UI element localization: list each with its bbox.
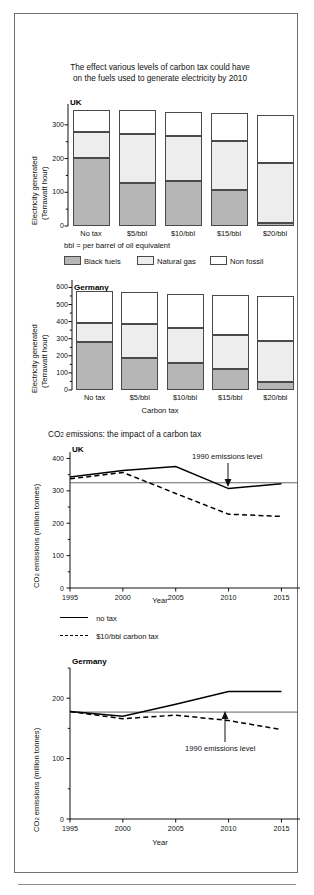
y-tick-label: 200 xyxy=(42,352,68,359)
bar-segment xyxy=(121,358,158,390)
y-tick-label: 600 xyxy=(42,283,68,290)
germany-1990-annotation: 1990 emissions level xyxy=(185,744,256,753)
bar-segment xyxy=(257,341,294,382)
x-tick-label: $20/bbl xyxy=(249,393,301,402)
y-tick-label: 200 xyxy=(38,155,64,162)
bar-segment xyxy=(257,382,294,390)
bar-segment xyxy=(119,110,156,134)
x-tick-label: $20/bbl xyxy=(249,229,301,238)
bar-segment xyxy=(212,335,249,369)
bar-segment xyxy=(121,324,158,359)
bar-segment xyxy=(211,190,248,226)
line-legend-label-carbon-tax: $10/bbl carbon tax xyxy=(96,632,158,641)
bar-segment xyxy=(167,328,204,363)
y-tick-label: 0 xyxy=(42,386,68,393)
bar-chart-title-line2: on the fuels used to generate electricit… xyxy=(40,73,280,84)
legend-swatch-black-fuels xyxy=(64,256,81,265)
uk-line-xlabel: Year xyxy=(120,596,200,605)
bbl-note: bbl = per barrel of oil equivalent xyxy=(64,241,170,250)
line-chart-title-text: CO2 emissions: the impact of a carbon ta… xyxy=(48,430,201,439)
x-tick-label: No tax xyxy=(69,393,121,402)
bar-segment xyxy=(76,342,113,390)
bar-segment xyxy=(76,323,113,342)
bar-segment xyxy=(257,163,294,223)
legend-label-black-fuels: Black fuels xyxy=(84,257,121,266)
bar-segment xyxy=(76,291,113,323)
germany-line-xlabel: Year xyxy=(120,838,200,847)
y-tick-label: 100 xyxy=(38,188,64,195)
x-tick-label: $5/bbl xyxy=(111,229,163,238)
uk-1990-annotation: 1990 emissions level xyxy=(192,452,263,461)
line-chart-title: CO2 emissions: the impact of a carbon ta… xyxy=(48,429,278,440)
y-tick-label: 500 xyxy=(42,301,68,308)
x-tick-label: $5/bbl xyxy=(114,393,166,402)
bar-segment xyxy=(257,115,294,163)
y-tick-label: 100 xyxy=(42,369,68,376)
x-tick-label: $10/bbl xyxy=(159,393,211,402)
legend-swatch-natural-gas xyxy=(137,256,154,265)
legend-label-non-fossil: Non fossil xyxy=(230,257,263,266)
line-legend-no-tax: no tax xyxy=(60,614,117,623)
bar-segment xyxy=(211,141,248,190)
line-legend-solid-sample xyxy=(60,617,88,618)
germany-bar-ylabel-line1: Electricity generated xyxy=(30,324,39,393)
y-tick-label: 0 xyxy=(38,222,64,229)
bar-segment xyxy=(121,292,158,323)
y-tick-label: 300 xyxy=(42,335,68,342)
bar-segment xyxy=(73,158,110,226)
bar-segment xyxy=(167,363,204,390)
germany-line-ylabel: CO2 emissions (million tonnes) xyxy=(32,728,41,832)
bar-segment xyxy=(119,183,156,226)
bar-segment xyxy=(211,113,248,141)
y-tick-label: 400 xyxy=(42,318,68,325)
legend-item-non-fossil: Non fossil xyxy=(210,257,263,266)
fuel-legend: Black fuels Natural gas Non fossil xyxy=(64,256,263,266)
uk-line-ylabel: CO2 emissions (million tonnes) xyxy=(32,484,41,588)
x-tick-label: $10/bbl xyxy=(157,229,209,238)
bar-chart-title: The effect various levels of carbon tax … xyxy=(40,62,280,84)
bar-segment xyxy=(165,112,202,136)
line-legend-dashed-sample xyxy=(60,635,88,636)
x-tick-label: $15/bbl xyxy=(204,393,256,402)
uk-line-panel-label: UK xyxy=(72,445,84,454)
bar-segment xyxy=(73,132,110,158)
germany-bar-xlabel: Carbon tax xyxy=(100,406,220,415)
bar-segment xyxy=(212,295,249,335)
bar-segment xyxy=(165,136,202,182)
legend-swatch-non-fossil xyxy=(210,256,227,265)
legend-label-natural-gas: Natural gas xyxy=(157,257,196,266)
legend-item-natural-gas: Natural gas xyxy=(137,257,198,266)
figure-page: The effect various levels of carbon tax … xyxy=(0,0,314,895)
germany-line-panel-label: Germany xyxy=(72,657,107,666)
bar-segment xyxy=(165,181,202,226)
line-legend-carbon-tax: $10/bbl carbon tax xyxy=(60,632,159,641)
bar-segment xyxy=(73,110,110,132)
x-tick-label: No tax xyxy=(65,229,117,238)
uk-bar-panel-label: UK xyxy=(70,98,82,107)
bar-segment xyxy=(257,296,294,341)
footer-rule xyxy=(18,884,296,885)
line-legend-label-no-tax: no tax xyxy=(96,614,117,623)
legend-item-black-fuels: Black fuels xyxy=(64,257,123,266)
bar-segment xyxy=(119,134,156,183)
y-tick-label: 300 xyxy=(38,121,64,128)
bar-segment xyxy=(212,369,249,390)
germany-bar-ylabel-line2: (Terrawatt hour) xyxy=(40,334,49,388)
bar-segment xyxy=(257,223,294,226)
bar-segment xyxy=(167,294,204,329)
x-tick-label: $15/bbl xyxy=(203,229,255,238)
bar-chart-title-line1: The effect various levels of carbon tax … xyxy=(40,62,280,73)
